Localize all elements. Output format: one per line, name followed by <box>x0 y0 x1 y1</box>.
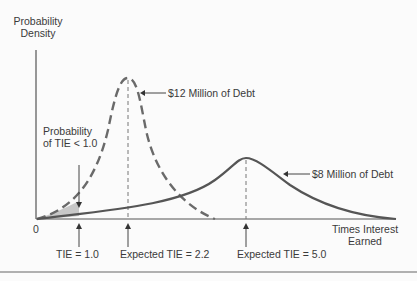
y-axis-label-line1: Probability <box>8 15 68 27</box>
expected-50-label: Expected TIE = 5.0 <box>237 248 326 260</box>
y-axis-label-line2: Density <box>8 27 68 39</box>
prob-line2: of TIE < 1.0 <box>43 137 97 149</box>
tie-1-label: TIE = 1.0 <box>56 248 99 260</box>
label-8-million: $8 Million of Debt <box>312 168 393 180</box>
arrow-head-tie1 <box>76 223 82 229</box>
origin-label: 0 <box>33 223 39 235</box>
arrow-head-12m <box>140 90 145 96</box>
y-axis-label: Probability Density <box>8 15 68 39</box>
prob-line1: Probability <box>43 125 97 137</box>
x-axis-label-line2: Earned <box>330 235 400 247</box>
x-axis-label-line1: Times Interest <box>330 223 400 235</box>
arrow-head-22 <box>125 223 131 229</box>
label-12-million: $12 Million of Debt <box>168 87 255 99</box>
x-axis-label: Times Interest Earned <box>330 223 400 247</box>
expected-22-label: Expected TIE = 2.2 <box>120 248 209 260</box>
arrow-head-8m <box>283 171 288 177</box>
arrow-head-50 <box>243 223 249 229</box>
probability-annotation: Probability of TIE < 1.0 <box>43 125 97 149</box>
